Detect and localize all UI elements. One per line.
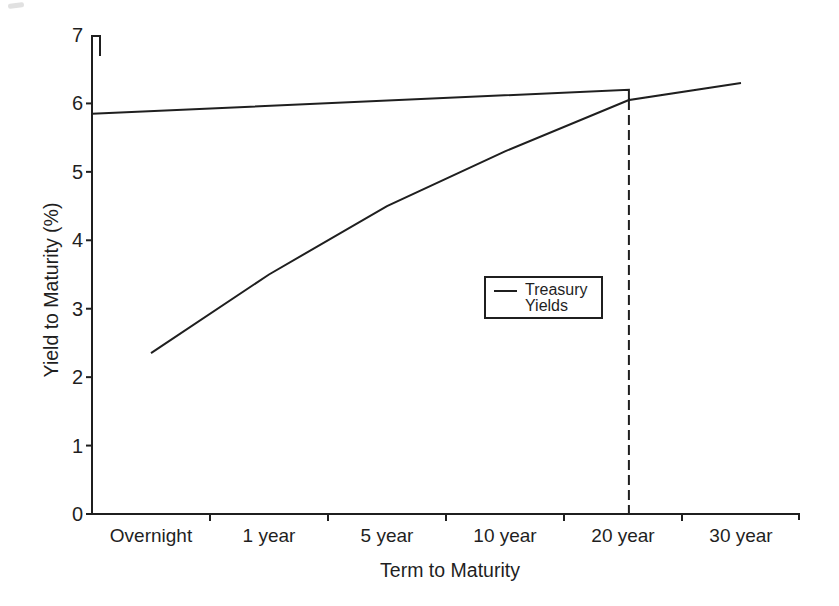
y-axis-title: Yield to Maturity (%) [40, 203, 62, 378]
x-tick-label-Overnight: Overnight [110, 525, 193, 546]
y-tick-label-4: 4 [72, 229, 83, 251]
y-tick-label-2: 2 [72, 366, 83, 388]
x-axis-title: Term to Maturity [380, 559, 520, 581]
legend-label-line1: Treasury [525, 282, 588, 298]
x-tick-label-1-year: 1 year [243, 525, 296, 546]
legend-line-sample-icon [494, 290, 517, 292]
series-line-0 [92, 83, 741, 114]
legend: Treasury Yields [484, 276, 603, 319]
y-tick-label-1: 1 [72, 435, 83, 457]
y-tick-label-3: 3 [72, 298, 83, 320]
x-tick-label-20-year: 20 year [591, 525, 655, 546]
x-tick-label-5-year: 5 year [361, 525, 414, 546]
y-tick-label-5: 5 [72, 161, 83, 183]
y-axis-top-tick [92, 36, 100, 56]
y-tick-label-6: 6 [72, 92, 83, 114]
legend-label-line2: Yields [525, 298, 588, 314]
plot-area: 01234567Overnight1 year5 year10 year20 y… [0, 0, 839, 606]
x-tick-label-10-year: 10 year [473, 525, 537, 546]
legend-label: Treasury Yields [525, 282, 588, 314]
x-tick-label-30-year: 30 year [709, 525, 773, 546]
y-tick-label-0: 0 [72, 503, 83, 525]
y-tick-label-7: 7 [72, 24, 83, 46]
treasury-yield-curve-chart: 01234567Overnight1 year5 year10 year20 y… [0, 0, 839, 606]
